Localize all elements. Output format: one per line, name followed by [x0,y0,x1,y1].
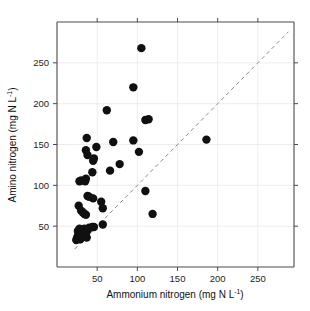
data-point [89,194,97,202]
data-point [82,175,90,183]
data-point [92,143,100,151]
x-axis-title: Ammonium nitrogen (mg N L-1) [106,288,243,300]
data-point [88,168,96,176]
data-point [103,106,111,114]
x-tick-label: 50 [92,273,103,284]
data-point [83,134,91,142]
data-point [202,135,210,143]
y-tick-label: 250 [33,57,49,68]
data-point [148,210,156,218]
data-point [82,211,90,219]
data-point [135,148,143,156]
x-tick-label: 250 [250,273,266,284]
x-tick-label: 200 [210,273,226,284]
data-point [109,138,117,146]
data-point [83,233,91,241]
data-point [99,220,107,228]
y-tick-label: 100 [33,180,49,191]
data-point [99,204,107,212]
x-tick-label: 150 [170,273,186,284]
data-point [115,160,123,168]
data-point [144,115,152,123]
data-point [141,187,149,195]
y-tick-label: 150 [33,139,49,150]
scatter-plot-svg: 50100150200250 50100150200250 Ammonium n… [0,0,310,311]
x-axis-tick-labels: 50100150200250 [92,273,266,284]
data-point [129,83,137,91]
y-axis-tick-labels: 50100150200250 [33,57,49,231]
y-tick-label: 200 [33,98,49,109]
data-point [129,136,137,144]
data-point [106,166,114,174]
y-axis-title: Amino nitrogen (mg N L-1) [6,88,18,203]
data-point [82,146,90,154]
y-tick-label: 50 [38,221,49,232]
data-point [137,44,145,52]
data-point [90,223,98,231]
chart-figure: 50100150200250 50100150200250 Ammonium n… [0,0,310,311]
x-tick-label: 100 [129,273,145,284]
